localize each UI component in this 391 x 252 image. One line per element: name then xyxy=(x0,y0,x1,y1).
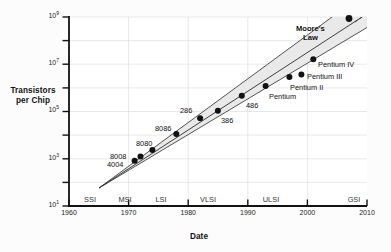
x-tick-label-2010: 2010 xyxy=(352,209,382,216)
y-axis-title-line-1: Transistors xyxy=(4,86,62,96)
moores-law-annotation: Moore's Law xyxy=(296,24,325,42)
era-label-ulsi: ULSI xyxy=(251,195,291,204)
y-tick-label-1e5: 105 xyxy=(33,106,59,113)
x-tick-label-1960: 1960 xyxy=(54,209,84,216)
point-8080 xyxy=(149,147,155,153)
point-4004 xyxy=(132,158,138,164)
point-486 xyxy=(239,93,245,99)
point-pentium xyxy=(263,83,269,89)
point-386 xyxy=(215,108,221,114)
era-label-lsi: LSI xyxy=(141,195,181,204)
point-label-pentium-iv: Pentium IV xyxy=(318,60,354,69)
upper-extension-line xyxy=(332,0,372,17)
y-tick-label-1e3: 103 xyxy=(33,154,59,161)
point-label-pentium-iii: Pentium III xyxy=(307,72,342,81)
x-axis-title: Date xyxy=(176,232,222,242)
lower-extension-line-2 xyxy=(362,1,385,17)
point-label-286: 286 xyxy=(180,106,192,115)
era-label-gsi: GSI xyxy=(334,195,374,204)
point-pentium-iii xyxy=(298,72,304,78)
y-tick-exponent-9: 9 xyxy=(56,10,59,16)
point-label-8080: 8080 xyxy=(136,139,152,148)
y-tick-label-1e1: 101 xyxy=(33,201,59,208)
x-tick-label-1990: 1990 xyxy=(233,209,263,216)
x-tick-label-1970: 1970 xyxy=(114,209,144,216)
y-tick-exponent-1: 1 xyxy=(56,199,59,205)
moores-law-line-2: Law xyxy=(296,33,325,42)
point-label-pentium-ii: Pentium II xyxy=(290,83,323,92)
point-pentium-iv xyxy=(310,56,316,62)
point-label-8008: 8008 xyxy=(110,152,126,161)
era-label-vlsi: VLSI xyxy=(188,195,228,204)
point-label-486: 486 xyxy=(246,101,258,110)
y-axis-ticks xyxy=(63,17,70,206)
point-label-8086: 8086 xyxy=(155,124,171,133)
y-tick-exponent-7: 7 xyxy=(56,57,59,63)
point-last xyxy=(346,15,353,22)
point-label-4004: 4004 xyxy=(107,160,123,169)
moores-law-chart: Transistors per Chip Date 109 107 105 10… xyxy=(0,0,391,252)
point-286 xyxy=(197,115,203,121)
y-tick-label-1e9: 109 xyxy=(33,12,59,19)
x-tick-label-2000: 2000 xyxy=(292,209,322,216)
era-label-ssi: SSI xyxy=(70,195,110,204)
y-tick-exponent-3: 3 xyxy=(56,152,59,158)
point-pentium-ii xyxy=(286,74,292,80)
point-8086 xyxy=(173,131,179,137)
point-8008 xyxy=(138,153,144,159)
y-axis-title-line-2: per Chip xyxy=(4,96,62,106)
y-tick-exponent-5: 5 xyxy=(56,104,59,110)
era-label-msi: MSI xyxy=(105,195,145,204)
moores-law-line-1: Moore's xyxy=(296,24,325,33)
x-tick-label-1980: 1980 xyxy=(173,209,203,216)
y-axis-title: Transistors per Chip xyxy=(4,86,62,106)
point-label-386: 386 xyxy=(221,116,233,125)
point-label-pentium: Pentium xyxy=(269,92,296,101)
y-tick-label-1e7: 107 xyxy=(33,59,59,66)
